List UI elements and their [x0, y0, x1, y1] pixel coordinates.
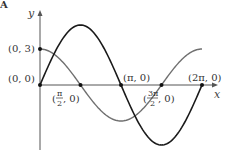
svg-text:, 0): , 0) [63, 93, 80, 104]
point-pi [119, 83, 123, 87]
x-axis-arrow-icon [212, 83, 218, 88]
svg-text:2: 2 [150, 99, 155, 108]
svg-text:(: ( [143, 93, 147, 104]
svg-text:3π: 3π [148, 89, 158, 98]
point-0-3 [38, 47, 42, 51]
svg-text:(: ( [52, 93, 56, 104]
y-axis-label: y [27, 7, 35, 20]
label-pi-half: ( π 2 , 0) [52, 89, 80, 108]
panel-letter: A [0, 0, 8, 10]
x-axis-label: x [214, 88, 221, 101]
point-3pi-half [160, 83, 164, 87]
chart: A y x (0, 3) (0, 0) (π, 0) (2π, 0) ( π 2… [0, 0, 229, 160]
svg-text:, 0): , 0) [158, 93, 175, 104]
svg-text:2: 2 [57, 99, 62, 108]
label-0-3: (0, 3) [8, 43, 35, 54]
label-3pi-half: ( 3π 2 , 0) [143, 89, 175, 108]
point-2pi [200, 83, 204, 87]
label-2pi: (2π, 0) [188, 72, 222, 83]
label-pi: (π, 0) [123, 72, 150, 83]
point-pi-half [79, 83, 83, 87]
svg-text:π: π [57, 89, 62, 98]
point-origin [38, 83, 42, 87]
y-axis-arrow-icon [38, 10, 43, 16]
label-origin: (0, 0) [8, 73, 35, 84]
